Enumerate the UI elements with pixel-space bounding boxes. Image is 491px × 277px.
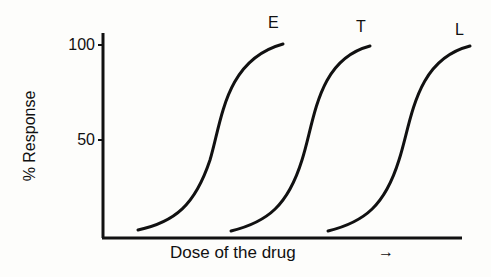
curve-label-t: T <box>356 18 366 36</box>
curve-e <box>138 44 283 230</box>
y-tick-label-100: 100 <box>55 36 95 54</box>
arrow-right-icon: → <box>378 243 394 261</box>
y-tick-label-50: 50 <box>55 131 95 149</box>
curve-l <box>328 46 470 231</box>
x-axis-label: Dose of the drug <box>170 243 296 263</box>
curve-label-l: L <box>455 21 464 39</box>
curve-label-e: E <box>268 14 279 32</box>
y-axis-label: % Response <box>21 91 39 182</box>
curve-t <box>231 46 370 231</box>
